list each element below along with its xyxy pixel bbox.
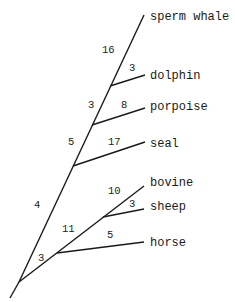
length-dolphin: 3	[129, 62, 135, 74]
length-dolphin-sperm-stem: 3	[88, 99, 94, 111]
length-horse: 5	[107, 229, 113, 241]
taxon-dolphin: dolphin	[150, 69, 200, 83]
length-ungulate-stem: 3	[38, 252, 44, 264]
length-cetacean-stem: 5	[68, 136, 74, 148]
length-sheep: 3	[129, 198, 135, 210]
length-seal: 17	[108, 136, 121, 148]
length-sperm-whale: 16	[102, 44, 115, 56]
taxon-seal: seal	[150, 137, 179, 151]
length-porpoise: 8	[121, 99, 127, 111]
taxon-porpoise: porpoise	[150, 100, 208, 114]
length-ruminant-stem: 11	[62, 223, 75, 235]
root-branch	[10, 282, 19, 298]
length-bovine: 10	[108, 185, 121, 197]
taxon-sperm-whale: sperm whale	[150, 10, 229, 24]
taxon-horse: horse	[150, 236, 186, 250]
taxon-sheep: sheep	[150, 200, 186, 214]
taxon-bovine: bovine	[150, 176, 193, 190]
length-marine-stem: 4	[34, 199, 40, 211]
phylogenetic-tree: sperm whale dolphin porpoise seal bovine…	[0, 0, 235, 302]
